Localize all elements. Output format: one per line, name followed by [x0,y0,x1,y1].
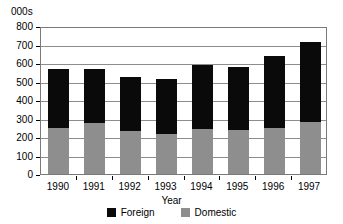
x-axis-title: Year [0,195,343,206]
legend-label: Domestic [195,207,237,218]
x-axis-tick-mark [148,176,149,180]
x-axis-tick-label: 1993 [146,181,186,192]
legend-swatch-icon [107,208,116,217]
x-axis-tick-label: 1995 [217,181,257,192]
x-axis-tick-mark [112,176,113,180]
legend-item: Domestic [181,207,237,218]
x-axis-tick-mark [219,176,220,180]
x-axis-tick-label: 1994 [181,181,221,192]
x-axis: 19901991199219931994199519961997 [0,0,343,224]
legend-label: Foreign [121,207,155,218]
x-axis-tick-label: 1991 [74,181,114,192]
x-axis-tick-mark [291,176,292,180]
x-axis-tick-label: 1997 [289,181,329,192]
x-axis-tick-mark [76,176,77,180]
x-axis-tick-label: 1992 [110,181,150,192]
x-axis-tick-label: 1990 [38,181,78,192]
legend-item: Foreign [107,207,155,218]
x-axis-tick-mark [184,176,185,180]
chart-legend: ForeignDomestic [0,207,343,218]
legend-swatch-icon [181,208,190,217]
x-axis-tick-label: 1996 [253,181,293,192]
stacked-bar-chart: 000s 0100200300400500600700800 199019911… [0,0,343,224]
x-axis-tick-mark [255,176,256,180]
